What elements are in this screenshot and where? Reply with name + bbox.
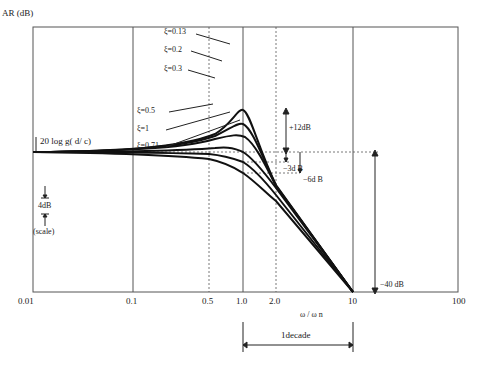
damping-label: ξ=0.5 <box>137 107 155 115</box>
damping-label: ξ=0.71 <box>137 142 159 150</box>
damping-label: ξ=0.3 <box>164 65 182 73</box>
x-tick: 0.5 <box>202 297 213 306</box>
x-tick: 2.0 <box>269 297 280 306</box>
x-tick: 1.0 <box>236 297 247 306</box>
minus6-annotation: −6d B <box>303 176 323 184</box>
curve-xi-0.71 <box>33 152 353 292</box>
gain-label: 20 log g( d/ c) <box>40 137 91 146</box>
x-tick: 0.01 <box>18 297 34 306</box>
minus40-annotation: −40 dB <box>380 281 404 289</box>
damping-label: ξ=0.13 <box>164 28 186 36</box>
peak-annotation: +12dB <box>289 124 311 132</box>
curve-xi-0.5 <box>33 147 353 292</box>
plot-frame <box>33 27 458 292</box>
curve-xi-1 <box>33 152 353 292</box>
damping-label: ξ=0.2 <box>164 46 182 54</box>
minus3-annotation: −3d B <box>283 165 303 173</box>
x-axis-label: ω / ω n <box>300 311 323 319</box>
y-axis-title: AR (dB) <box>2 9 33 18</box>
reference-lines <box>33 152 378 173</box>
scale-caption: (scale) <box>33 228 54 236</box>
scale-value: 4dB <box>38 202 51 210</box>
decade-label: 1decade <box>281 331 310 340</box>
minus3-arrow <box>284 152 288 162</box>
damping-label: ξ=1 <box>137 125 149 133</box>
x-tick: 0.1 <box>126 297 137 306</box>
minus40-arrow <box>372 150 378 294</box>
x-tick: 100 <box>452 297 466 306</box>
bode-plot <box>0 0 480 376</box>
x-tick: 10 <box>348 297 357 306</box>
curve-xi-0.3 <box>33 135 353 292</box>
